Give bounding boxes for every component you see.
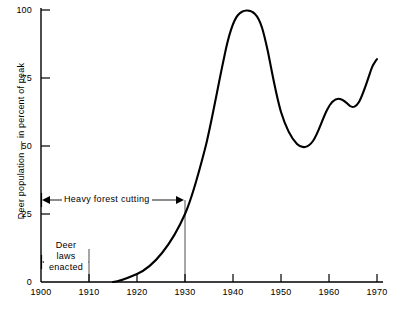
annotation-heavy-forest-cutting: Heavy forest cutting: [62, 194, 152, 205]
y-tick-label-75: 75: [8, 73, 32, 83]
x-tick-label-1940: 1940: [215, 287, 251, 297]
deer-population-curve: [113, 11, 377, 282]
y-tick-label-100: 100: [8, 5, 32, 15]
x-tick-label-1910: 1910: [71, 287, 107, 297]
x-tick-label-1950: 1950: [263, 287, 299, 297]
x-tick-label-1970: 1970: [359, 287, 395, 297]
y-axis-ticks: [41, 10, 50, 214]
x-tick-label-1960: 1960: [311, 287, 347, 297]
y-tick-label-0: 0: [8, 277, 32, 287]
x-tick-label-1920: 1920: [119, 287, 155, 297]
x-tick-label-1900: 1900: [23, 287, 59, 297]
y-tick-label-25: 25: [8, 209, 32, 219]
deer-laws-line-3: enacted: [44, 262, 88, 273]
deer-laws-line-1: Deer: [44, 240, 88, 251]
deer-population-chart: Deer population — in percent of peak 100…: [0, 0, 397, 310]
deer-laws-line-2: laws: [44, 251, 88, 262]
y-tick-label-50: 50: [8, 141, 32, 151]
x-tick-label-1930: 1930: [167, 287, 203, 297]
annotation-deer-laws-enacted: Deer laws enacted: [44, 240, 88, 273]
